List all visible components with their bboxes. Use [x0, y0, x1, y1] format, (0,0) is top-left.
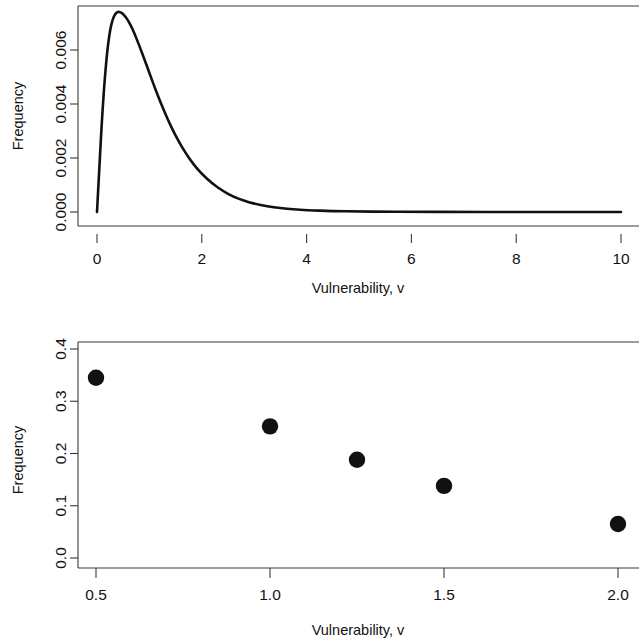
gamma-density-plot: 0.0000.0020.0040.006 0246810 Frequency V… [0, 0, 639, 320]
x-axis-title: Vulnerability, v [312, 280, 405, 296]
x-tick-label: 2.0 [607, 586, 629, 603]
x-axis-tick-labels: 0246810 [93, 250, 630, 267]
y-tick-label: 0.0 [52, 547, 69, 569]
x-tick-label: 6 [407, 250, 416, 267]
y-tick-label: 0.000 [52, 192, 69, 231]
x-axis-tick-labels: 0.51.01.52.0 [85, 586, 629, 603]
x-tick-label: 0.5 [85, 586, 107, 603]
y-tick-label: 0.1 [52, 495, 69, 517]
frequency-scatter-plot: 0.00.10.20.30.4 0.51.01.52.0 Frequency V… [0, 320, 639, 641]
y-tick-label: 0.002 [52, 139, 69, 178]
data-point [262, 418, 278, 434]
data-point [436, 478, 452, 494]
y-axis-tick-labels: 0.00.10.20.30.4 [52, 338, 69, 569]
y-tick-label: 0.006 [52, 31, 69, 70]
data-point [349, 452, 365, 468]
y-axis-ticks [70, 349, 78, 558]
x-axis-title: Vulnerability, v [312, 622, 405, 638]
x-tick-label: 8 [512, 250, 521, 267]
x-tick-label: 4 [302, 250, 311, 267]
data-point-group [88, 370, 626, 533]
y-tick-label: 0.3 [52, 390, 69, 412]
y-axis-tick-labels: 0.0000.0020.0040.006 [52, 31, 69, 232]
x-tick-label: 0 [93, 250, 102, 267]
figure-root: 0.0000.0020.0040.006 0246810 Frequency V… [0, 0, 639, 641]
top-chart-panel: 0.0000.0020.0040.006 0246810 Frequency V… [0, 0, 639, 320]
x-tick-label: 10 [612, 250, 630, 267]
y-axis-title: Frequency [10, 81, 26, 150]
data-point [610, 516, 626, 532]
x-tick-label: 2 [197, 250, 206, 267]
y-tick-label: 0.4 [52, 338, 69, 360]
y-axis-ticks [70, 50, 78, 212]
x-tick-label: 1.5 [433, 586, 455, 603]
x-axis-ticks [96, 568, 618, 578]
y-axis-title: Frequency [10, 425, 26, 494]
x-axis-ticks [97, 234, 621, 243]
data-point [88, 370, 104, 386]
bottom-chart-panel: 0.00.10.20.30.4 0.51.01.52.0 Frequency V… [0, 320, 639, 641]
x-tick-label: 1.0 [259, 586, 281, 603]
y-tick-label: 0.004 [52, 84, 69, 123]
density-curve [97, 12, 621, 212]
plot-frame [78, 6, 639, 226]
y-tick-label: 0.2 [52, 443, 69, 465]
